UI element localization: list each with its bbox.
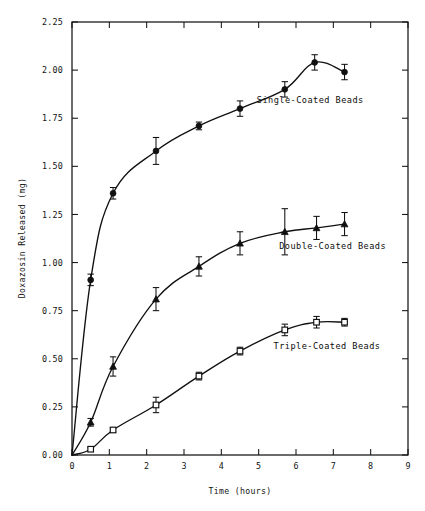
y-tick-label: 1.50 <box>42 161 63 171</box>
data-point-marker <box>282 86 288 92</box>
data-point-marker <box>314 319 320 325</box>
x-tick-label: 5 <box>256 461 261 471</box>
data-point-marker <box>312 60 318 66</box>
x-tick-label: 3 <box>181 461 186 471</box>
series-curve-filled-circle <box>72 62 345 455</box>
data-point-marker <box>110 363 117 369</box>
data-point-marker <box>196 123 202 129</box>
data-point-marker <box>153 402 159 408</box>
series-annotations: Single-Coated BeadsDouble-Coated BeadsTr… <box>257 95 386 351</box>
chart-figure: 0.000.250.500.751.001.251.501.752.002.25… <box>0 0 425 511</box>
y-tick-label: 0.50 <box>42 354 63 364</box>
data-point-marker <box>237 348 243 354</box>
data-point-marker <box>153 148 159 154</box>
series-markers <box>87 60 348 453</box>
y-tick-label: 1.75 <box>42 113 63 123</box>
y-axis-title: Doxazosin Released (mg) <box>17 178 27 298</box>
series-annotation-label: Single-Coated Beads <box>257 95 364 105</box>
y-tick-label: 0.25 <box>42 402 63 412</box>
y-tick-label: 1.25 <box>42 210 63 220</box>
data-point-marker <box>282 327 288 333</box>
data-point-marker <box>88 277 94 283</box>
x-tick-label: 6 <box>293 461 298 471</box>
x-axis-title: Time (hours) <box>209 486 272 496</box>
x-tick-label: 7 <box>331 461 336 471</box>
x-axis-tick-labels: 0123456789 <box>69 461 410 471</box>
series-error-bars <box>87 55 347 451</box>
data-point-marker <box>342 69 348 75</box>
x-tick-label: 2 <box>144 461 149 471</box>
data-point-marker <box>110 427 116 433</box>
data-point-marker <box>196 263 203 269</box>
data-point-marker <box>342 319 348 325</box>
data-point-marker <box>87 419 94 425</box>
data-point-marker <box>237 106 243 112</box>
y-axis-tick-labels: 0.000.250.500.751.001.251.501.752.002.25 <box>42 17 63 460</box>
y-tick-label: 1.00 <box>42 258 63 268</box>
y-tick-label: 2.00 <box>42 65 63 75</box>
x-tick-label: 9 <box>405 461 410 471</box>
x-tick-label: 0 <box>69 461 74 471</box>
x-tick-label: 4 <box>219 461 224 471</box>
y-tick-label: 0.75 <box>42 306 63 316</box>
x-tick-label: 8 <box>368 461 373 471</box>
x-tick-label: 1 <box>107 461 112 471</box>
series-annotation-label: Triple-Coated Beads <box>274 341 381 351</box>
y-tick-label: 2.25 <box>42 17 63 27</box>
data-point-marker <box>110 190 116 196</box>
series-annotation-label: Double-Coated Beads <box>279 241 386 251</box>
y-tick-label: 0.00 <box>42 450 63 460</box>
series-curve-filled-triangle <box>72 224 345 455</box>
data-point-marker <box>88 446 94 452</box>
data-point-marker <box>196 373 202 379</box>
doxazosin-release-line-chart: 0.000.250.500.751.001.251.501.752.002.25… <box>0 0 425 511</box>
series-curves <box>72 62 345 455</box>
